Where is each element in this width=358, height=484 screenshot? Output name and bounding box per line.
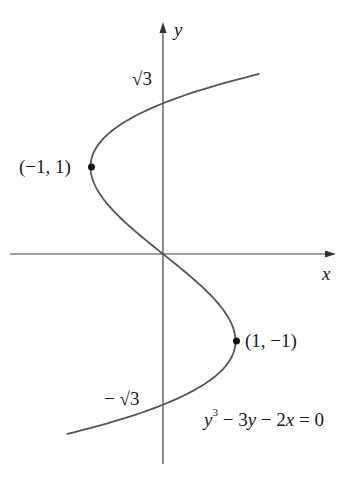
point-local-max [88, 164, 95, 171]
point-label-max: (−1, 1) [19, 157, 71, 176]
equation-label: y3 − 3y − 2x = 0 [204, 410, 324, 429]
minus-sign: − [104, 388, 115, 409]
eq-exponent: 3 [212, 406, 218, 418]
point-label-min: (1, −1) [245, 331, 297, 350]
eq-part1: − 3 [218, 409, 248, 430]
eq-y2: y [248, 409, 256, 430]
y-axis-label: y [174, 20, 182, 39]
eq-x: x [286, 409, 294, 430]
tick-label-neg-sqrt3: − √3 [104, 389, 139, 408]
x-axis-arrow-icon [325, 251, 336, 258]
tick-label-sqrt3: √3 [132, 69, 152, 88]
eq-part3: = 0 [294, 409, 324, 430]
eq-part2: − 2 [256, 409, 286, 430]
x-axis-label: x [322, 264, 330, 283]
point-local-min [233, 338, 240, 345]
sqrt3-text: √3 [119, 388, 139, 409]
y-axis-arrow-icon [160, 22, 167, 33]
